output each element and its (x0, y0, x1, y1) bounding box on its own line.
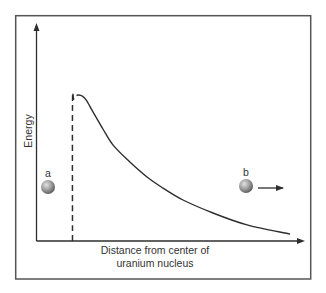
energy-diagram: Energy Distance from center of uranium n… (0, 0, 326, 293)
particle-b-ball-icon (239, 179, 253, 193)
x-axis-label-line-1: Distance from center of (101, 244, 210, 256)
y-axis-label: Energy (22, 114, 34, 148)
particle-b-label: b (243, 166, 249, 178)
energy-curve (78, 95, 290, 234)
x-axis-arrow-icon (297, 238, 305, 244)
dashed-barrier-curve (72, 92, 78, 241)
x-axis-label-line-2: uranium nucleus (116, 257, 193, 269)
particle-a-ball-icon (41, 180, 55, 194)
y-axis-arrow-icon (34, 23, 40, 31)
figure-frame (16, 16, 311, 279)
diagram-canvas: Energy Distance from center of uranium n… (0, 0, 326, 293)
particle-a-label: a (45, 167, 51, 179)
